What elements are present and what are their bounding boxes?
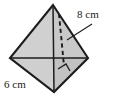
height-label: 8 cm xyxy=(77,8,99,20)
base-edge-label: 6 cm xyxy=(4,78,26,90)
pyramid-diagram-svg: 8 cm 6 cm xyxy=(0,0,120,98)
geometry-figure: 8 cm 6 cm xyxy=(0,0,120,98)
lateral-edge-front xyxy=(53,5,54,92)
